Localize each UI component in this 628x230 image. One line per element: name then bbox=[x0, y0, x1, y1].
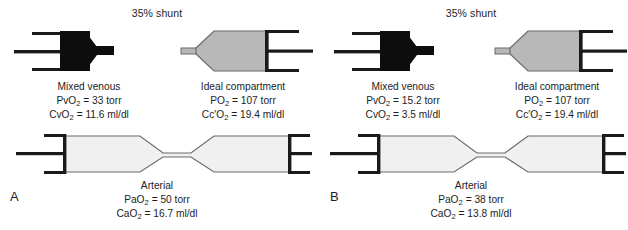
ideal-compartment-pressure-a: PO2 = 107 torr bbox=[168, 94, 318, 109]
panel-a: 35% shunt bbox=[0, 0, 314, 230]
ideal-compartment-shape-b bbox=[495, 30, 627, 72]
ideal-compartment-content-a: Cc′O2 = 19.4 ml/dl bbox=[168, 108, 318, 123]
mixed-venous-shape-a bbox=[14, 31, 114, 71]
mixed-venous-title-a: Mixed venous bbox=[14, 80, 164, 94]
arterial-caption-b: Arterial PaO2 = 38 torr CaO2 = 13.8 ml/d… bbox=[396, 179, 546, 222]
panel-letter-b: B bbox=[330, 189, 339, 204]
arterial-title-b: Arterial bbox=[396, 179, 546, 193]
arterial-content-b: CaO2 = 13.8 ml/dl bbox=[396, 207, 546, 222]
arterial-shape-a bbox=[16, 134, 312, 174]
mixed-venous-title-b: Mixed venous bbox=[328, 80, 478, 94]
arterial-title-a: Arterial bbox=[82, 179, 232, 193]
arterial-pressure-b: PaO2 = 38 torr bbox=[396, 193, 546, 208]
ideal-compartment-caption-b: Ideal compartment PO2 = 107 torr Cc′O2 =… bbox=[482, 80, 628, 123]
mixed-venous-pressure-b: PvO2 = 15.2 torr bbox=[328, 94, 478, 109]
ideal-compartment-shape-a bbox=[181, 30, 313, 72]
mixed-venous-shape-b bbox=[334, 31, 434, 71]
panel-letter-a: A bbox=[10, 189, 19, 204]
arterial-shape-b bbox=[330, 134, 626, 174]
mixed-venous-pressure-a: PvO2 = 33 torr bbox=[14, 94, 164, 109]
ideal-compartment-title-a: Ideal compartment bbox=[168, 80, 318, 94]
arterial-pressure-a: PaO2 = 50 torr bbox=[82, 193, 232, 208]
ideal-compartment-caption-a: Ideal compartment PO2 = 107 torr Cc′O2 =… bbox=[168, 80, 318, 123]
arterial-content-a: CaO2 = 16.7 ml/dl bbox=[82, 207, 232, 222]
panel-b: 35% shunt bbox=[314, 0, 628, 230]
mixed-venous-content-a: CvO2 = 11.6 ml/dl bbox=[14, 108, 164, 123]
ideal-compartment-content-b: Cc′O2 = 19.4 ml/dl bbox=[482, 108, 628, 123]
mixed-venous-caption-a: Mixed venous PvO2 = 33 torr CvO2 = 11.6 … bbox=[14, 80, 164, 123]
shunt-diagram-figure: 35% shunt bbox=[0, 0, 628, 230]
ideal-compartment-title-b: Ideal compartment bbox=[482, 80, 628, 94]
ideal-compartment-pressure-b: PO2 = 107 torr bbox=[482, 94, 628, 109]
arterial-caption-a: Arterial PaO2 = 50 torr CaO2 = 16.7 ml/d… bbox=[82, 179, 232, 222]
mixed-venous-content-b: CvO2 = 3.5 ml/dl bbox=[328, 108, 478, 123]
mixed-venous-caption-b: Mixed venous PvO2 = 15.2 torr CvO2 = 3.5… bbox=[328, 80, 478, 123]
